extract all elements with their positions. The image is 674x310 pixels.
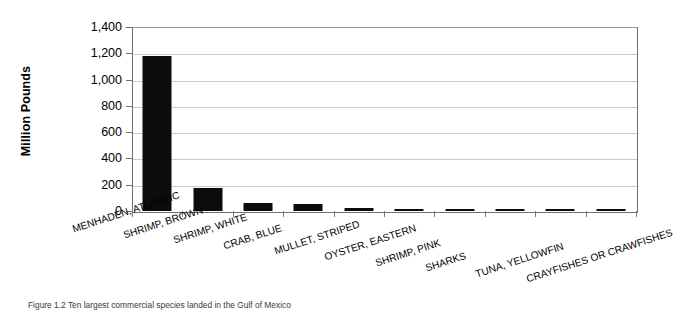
bar-slot <box>485 27 535 211</box>
bar <box>143 56 172 211</box>
bar-slot <box>384 27 434 211</box>
bar-slot <box>283 27 333 211</box>
y-axis-tick-label: 1,400 <box>91 21 122 33</box>
x-axis-category-label: SHARKS <box>424 250 467 273</box>
bar-slot <box>233 27 283 211</box>
bar-slot <box>334 27 384 211</box>
bar <box>243 203 272 211</box>
bar-slot <box>434 27 484 211</box>
bar-slot <box>535 27 585 211</box>
bar-slot <box>586 27 636 211</box>
bar-series <box>132 27 636 211</box>
y-axis-tick-label: 200 <box>101 179 122 191</box>
y-axis-tick-label: 1,200 <box>91 47 122 59</box>
y-axis-tick-label: 800 <box>101 100 122 112</box>
y-axis-tick-label: 1,000 <box>91 74 122 86</box>
figure-caption: Figure 1.2 Ten largest commercial specie… <box>28 300 291 310</box>
y-axis-tick-label: 400 <box>101 152 122 164</box>
bar-slot <box>182 27 232 211</box>
x-axis-label-group: MENHADEN, ATLANTICSHRIMP, BROWNSHRIMP, W… <box>0 211 652 291</box>
y-axis-tick-label: 600 <box>101 126 122 138</box>
bar-slot <box>132 27 182 211</box>
